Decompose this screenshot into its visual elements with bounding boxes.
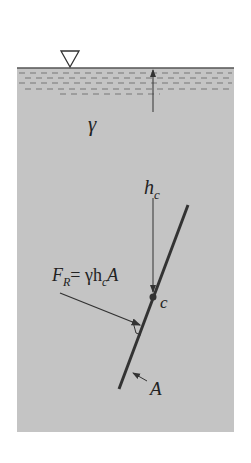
specific-weight-label: γ xyxy=(88,112,96,137)
resultant-force-equation: FR= γhcA xyxy=(52,265,118,290)
depth-label: hc xyxy=(144,176,160,203)
diagram-canvas xyxy=(0,0,251,463)
centroid-point xyxy=(150,294,157,301)
area-label: A xyxy=(150,378,162,400)
centroid-label: c xyxy=(160,293,168,313)
free-surface-triangle-icon xyxy=(61,51,79,67)
fluid-region xyxy=(17,68,234,432)
